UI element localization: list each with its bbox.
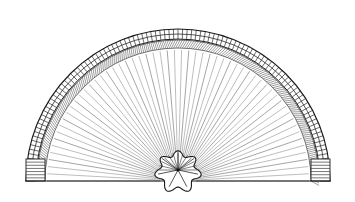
fan-illustration-canvas: Semicircular folding hand fan <box>0 0 355 202</box>
fan-drawing <box>0 0 355 202</box>
hub-center-dot <box>177 169 180 172</box>
